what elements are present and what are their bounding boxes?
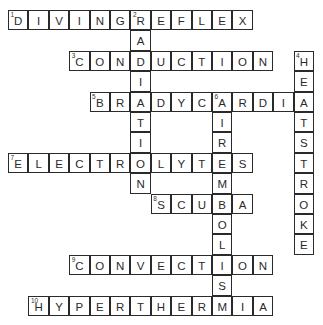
crossword-cell[interactable]: Y	[49, 296, 69, 316]
crossword-cell[interactable]: P	[69, 296, 89, 316]
crossword-cell[interactable]: D	[253, 92, 273, 112]
crossword-cell[interactable]: V	[49, 10, 69, 30]
crossword-cell[interactable]: I	[130, 132, 150, 152]
crossword-cell[interactable]: A	[253, 296, 273, 316]
crossword-cell[interactable]: I	[69, 10, 89, 30]
crossword-cell[interactable]: 9C	[69, 255, 89, 275]
cell-letter: E	[300, 240, 308, 252]
crossword-cell[interactable]: N	[253, 51, 273, 71]
crossword-cell[interactable]: Y	[171, 92, 191, 112]
crossword-cell[interactable]: F	[171, 10, 191, 30]
crossword-cell[interactable]: L	[151, 153, 171, 173]
crossword-cell[interactable]: C	[69, 153, 89, 173]
crossword-cell[interactable]: S	[232, 153, 252, 173]
cell-letter: S	[300, 138, 308, 150]
crossword-cell[interactable]: I	[212, 112, 232, 132]
crossword-cell[interactable]: E	[171, 296, 191, 316]
crossword-cell[interactable]: E	[212, 153, 232, 173]
crossword-cell[interactable]: N	[253, 255, 273, 275]
crossword-cell[interactable]: R	[232, 92, 252, 112]
crossword-cell[interactable]: N	[90, 10, 110, 30]
crossword-cell[interactable]: I	[130, 71, 150, 91]
crossword-cell[interactable]: O	[90, 255, 110, 275]
crossword-cell[interactable]: T	[192, 51, 212, 71]
crossword-cell[interactable]: A	[294, 92, 314, 112]
crossword-cell[interactable]: 3C	[69, 51, 89, 71]
crossword-cell[interactable]: V	[130, 255, 150, 275]
crossword-cell[interactable]: E	[212, 10, 232, 30]
crossword-cell[interactable]: N	[130, 173, 150, 193]
crossword-cell[interactable]: U	[151, 51, 171, 71]
crossword-cell[interactable]: A	[130, 30, 150, 50]
clue-number: 8	[153, 195, 157, 202]
crossword-cell[interactable]: R	[110, 296, 130, 316]
cell-letter: R	[116, 302, 124, 314]
crossword-cell[interactable]: R	[294, 173, 314, 193]
crossword-cell[interactable]: I	[212, 51, 232, 71]
crossword-cell[interactable]: M	[212, 173, 232, 193]
crossword-cell[interactable]: H	[151, 296, 171, 316]
crossword-cell[interactable]: M	[212, 296, 232, 316]
crossword-cell[interactable]: R	[212, 132, 232, 152]
crossword-cell[interactable]: E	[90, 296, 110, 316]
crossword-cell[interactable]: L	[212, 234, 232, 254]
crossword-cell[interactable]: E	[151, 10, 171, 30]
crossword-cell[interactable]: O	[212, 214, 232, 234]
crossword-cell[interactable]: U	[192, 194, 212, 214]
crossword-cell[interactable]: 1D	[8, 10, 28, 30]
crossword-cell[interactable]: R	[110, 153, 130, 173]
crossword-cell[interactable]: 6A	[212, 92, 232, 112]
crossword-cell[interactable]: C	[171, 194, 191, 214]
crossword-cell[interactable]: C	[171, 51, 191, 71]
crossword-cell[interactable]: T	[192, 255, 212, 275]
crossword-cell[interactable]: T	[294, 153, 314, 173]
cell-letter: N	[259, 261, 267, 273]
crossword-cell[interactable]: E	[49, 153, 69, 173]
crossword-cell[interactable]: R	[192, 296, 212, 316]
crossword-cell[interactable]: A	[130, 92, 150, 112]
crossword-cell[interactable]: 5B	[90, 92, 110, 112]
crossword-cell[interactable]: T	[130, 296, 150, 316]
crossword-cell[interactable]: R	[110, 92, 130, 112]
crossword-cell[interactable]: O	[130, 153, 150, 173]
crossword-cell[interactable]: I	[28, 10, 48, 30]
crossword-cell[interactable]: I	[273, 92, 293, 112]
crossword-cell[interactable]: 8S	[151, 194, 171, 214]
crossword-cell[interactable]: 2R	[130, 10, 150, 30]
crossword-cell[interactable]: T	[130, 112, 150, 132]
crossword-cell[interactable]: O	[90, 51, 110, 71]
crossword-cell[interactable]: D	[151, 92, 171, 112]
cell-letter: T	[198, 261, 205, 273]
crossword-cell[interactable]: E	[294, 71, 314, 91]
crossword-cell[interactable]: N	[110, 255, 130, 275]
crossword-cell[interactable]: G	[110, 10, 130, 30]
cell-letter: R	[238, 98, 246, 110]
crossword-cell[interactable]: D	[130, 51, 150, 71]
crossword-cell[interactable]: T	[294, 112, 314, 132]
crossword-cell[interactable]: N	[110, 51, 130, 71]
crossword-cell[interactable]: E	[151, 255, 171, 275]
crossword-cell[interactable]: K	[294, 214, 314, 234]
crossword-cell[interactable]: O	[294, 194, 314, 214]
crossword-cell[interactable]: S	[294, 132, 314, 152]
crossword-cell[interactable]: 4H	[294, 51, 314, 71]
crossword-cell[interactable]: E	[294, 234, 314, 254]
crossword-cell[interactable]: T	[90, 153, 110, 173]
cell-letter: C	[177, 261, 185, 273]
crossword-cell[interactable]: B	[212, 194, 232, 214]
crossword-cell[interactable]: T	[192, 153, 212, 173]
crossword-cell[interactable]: O	[232, 51, 252, 71]
crossword-cell[interactable]: 10H	[28, 296, 48, 316]
crossword-cell[interactable]: O	[232, 255, 252, 275]
crossword-cell[interactable]: A	[232, 194, 252, 214]
crossword-cell[interactable]: C	[192, 92, 212, 112]
crossword-cell[interactable]: S	[212, 275, 232, 295]
crossword-cell[interactable]: L	[28, 153, 48, 173]
crossword-cell[interactable]: I	[212, 255, 232, 275]
crossword-cell[interactable]: X	[232, 10, 252, 30]
crossword-cell[interactable]: 7E	[8, 153, 28, 173]
crossword-cell[interactable]: I	[232, 296, 252, 316]
crossword-cell[interactable]: Y	[171, 153, 191, 173]
crossword-cell[interactable]: L	[192, 10, 212, 30]
crossword-cell[interactable]: C	[171, 255, 191, 275]
